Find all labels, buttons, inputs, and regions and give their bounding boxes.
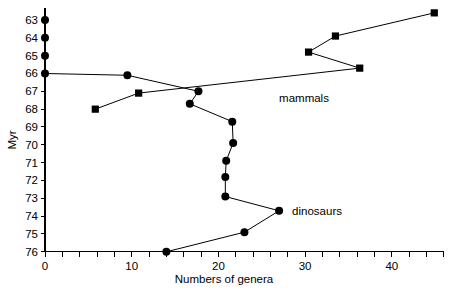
data-point-circle xyxy=(41,52,49,60)
data-point-circle xyxy=(275,207,283,215)
data-point-circle xyxy=(240,228,248,236)
y-tick-label-76: 76 xyxy=(25,246,38,258)
series-label-mammals: mammals xyxy=(279,92,329,104)
data-point-circle xyxy=(123,71,131,79)
y-tick-label-74: 74 xyxy=(25,210,38,222)
series-dinosaurs xyxy=(41,16,283,256)
data-point-square xyxy=(431,9,438,16)
y-tick-label-72: 72 xyxy=(25,174,38,186)
y-tick-label-64: 64 xyxy=(25,32,38,44)
y-tick-label-67: 67 xyxy=(25,85,38,97)
x-tick-label-30: 30 xyxy=(299,260,312,272)
axes-group xyxy=(45,8,444,252)
series-mammals xyxy=(92,9,438,112)
y-tick-label-75: 75 xyxy=(25,228,38,240)
y-tick-label-63: 63 xyxy=(25,14,38,26)
x-axis-ticks: 010203040 xyxy=(42,252,444,272)
data-point-square xyxy=(332,32,339,39)
scatter-line-chart: 6364656667686970717273747576 010203040 d… xyxy=(0,0,459,289)
x-tick-label-10: 10 xyxy=(125,260,138,272)
series-labels-group: dinosaursmammals xyxy=(279,92,342,216)
data-point-square xyxy=(92,106,99,113)
data-point-circle xyxy=(228,118,236,126)
series-line-dinosaurs xyxy=(45,20,279,252)
data-point-square xyxy=(135,90,142,97)
y-tick-label-71: 71 xyxy=(25,157,38,169)
data-point-square xyxy=(305,48,312,55)
y-axis-ticks: 6364656667686970717273747576 xyxy=(25,14,45,258)
data-point-circle xyxy=(162,248,170,256)
data-point-square xyxy=(356,65,363,72)
series-label-dinosaurs: dinosaurs xyxy=(292,205,342,217)
data-point-circle xyxy=(41,34,49,42)
x-tick-label-20: 20 xyxy=(212,260,225,272)
y-tick-label-70: 70 xyxy=(25,139,38,151)
data-point-circle xyxy=(229,139,237,147)
series-line-mammals xyxy=(95,13,434,109)
data-point-circle xyxy=(194,87,202,95)
x-tick-label-40: 40 xyxy=(385,260,398,272)
data-series-group xyxy=(41,9,438,256)
data-point-circle xyxy=(41,69,49,77)
y-axis-title: Myr xyxy=(6,130,18,149)
data-point-circle xyxy=(186,100,194,108)
y-tick-label-68: 68 xyxy=(25,103,38,115)
y-tick-label-66: 66 xyxy=(25,67,38,79)
x-axis-title: Numbers of genera xyxy=(175,273,274,285)
data-point-circle xyxy=(221,193,229,201)
x-tick-label-0: 0 xyxy=(42,260,48,272)
y-tick-label-73: 73 xyxy=(25,192,38,204)
data-point-circle xyxy=(41,16,49,24)
data-point-circle xyxy=(222,157,230,165)
data-point-circle xyxy=(221,173,229,181)
chart-container: 6364656667686970717273747576 010203040 d… xyxy=(0,0,459,289)
y-tick-label-65: 65 xyxy=(25,50,38,62)
y-tick-label-69: 69 xyxy=(25,121,38,133)
